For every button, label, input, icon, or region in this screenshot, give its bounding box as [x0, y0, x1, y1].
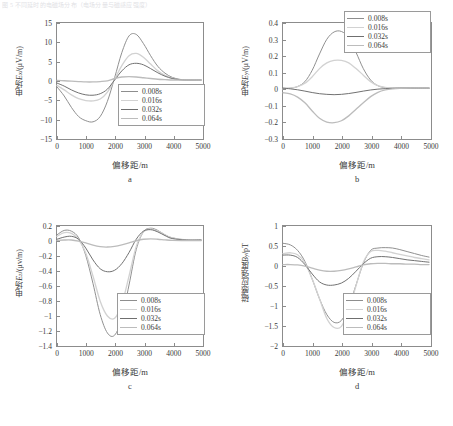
- y-tick-mark: [57, 241, 60, 242]
- x-tick-mark: [145, 343, 146, 346]
- y-tick-mark: [57, 286, 60, 287]
- y-tick-label: 10: [12, 38, 52, 47]
- x-tick-mark: [86, 136, 87, 139]
- panel-b-legend: 0.008s 0.016s 0.032s 0.064s: [344, 11, 431, 53]
- x-tick-mark: [174, 136, 175, 139]
- legend-swatch-line: [347, 45, 364, 46]
- legend-item: 0.064s: [121, 114, 201, 123]
- legend-item: 0.032s: [121, 105, 201, 114]
- y-tick-label: −0.4: [12, 267, 52, 276]
- panel-a-xlabel: 偏移距/m: [50, 158, 210, 170]
- y-tick-mark: [57, 271, 60, 272]
- x-tick-mark: [431, 343, 432, 346]
- panel-c-legend: 0.008s 0.016s 0.032s 0.064s: [117, 293, 205, 335]
- panel-a: 电场Ex/(μV/m) 0.008s 0.016s 0.032s 0.064s …: [0, 8, 226, 213]
- y-tick-mark: [57, 81, 60, 82]
- y-tick-mark: [57, 100, 60, 101]
- y-tick-label: −1.5: [238, 322, 278, 331]
- y-tick-label: −1: [238, 302, 278, 311]
- x-tick-label: 5000: [411, 349, 451, 358]
- series-line-0.064s: [283, 88, 429, 123]
- legend-item: 0.064s: [120, 323, 201, 332]
- legend-item: 0.032s: [120, 314, 201, 323]
- y-tick-label: 0: [238, 85, 278, 94]
- x-tick-label: 5000: [411, 142, 451, 151]
- panel-a-ylabel: 电场Ex/(μV/m): [14, 46, 25, 96]
- y-tick-mark: [57, 139, 60, 140]
- y-tick-mark: [57, 256, 60, 257]
- legend-item: 0.064s: [346, 323, 427, 332]
- y-tick-label: 0: [238, 262, 278, 271]
- x-tick-mark: [57, 343, 58, 346]
- y-tick-label: 5: [12, 57, 52, 66]
- x-tick-mark: [283, 136, 284, 139]
- x-tick-mark: [86, 343, 87, 346]
- y-tick-label: 0.5: [238, 242, 278, 251]
- series-line-0.032s: [283, 88, 429, 95]
- y-tick-label: 0.1: [238, 68, 278, 77]
- x-tick-mark: [401, 136, 402, 139]
- legend-item: 0.016s: [346, 305, 427, 314]
- y-tick-mark: [283, 326, 286, 327]
- legend-swatch-line: [121, 91, 138, 92]
- legend-item: 0.016s: [120, 305, 201, 314]
- y-tick-label: −5: [12, 96, 52, 105]
- series-line-0.016s: [283, 60, 429, 89]
- x-tick-mark: [313, 136, 314, 139]
- y-tick-mark: [283, 286, 286, 287]
- legend-swatch-line: [346, 309, 363, 310]
- panel-d-ylabel: 磁感应强度By/pT: [240, 243, 251, 302]
- x-tick-mark: [342, 343, 343, 346]
- y-tick-mark: [283, 266, 286, 267]
- legend-item: 0.008s: [121, 87, 201, 96]
- legend-item: 0.032s: [347, 32, 427, 41]
- y-tick-label: −1: [12, 312, 52, 321]
- x-tick-mark: [372, 136, 373, 139]
- y-tick-label: −1.2: [12, 327, 52, 336]
- y-tick-label: −10: [12, 115, 52, 124]
- legend-item: 0.008s: [347, 14, 427, 23]
- x-tick-label: 5000: [183, 142, 223, 151]
- panel-b-xlabel: 偏移距/m: [277, 158, 437, 170]
- y-tick-mark: [57, 62, 60, 63]
- panel-d-letter: d: [277, 381, 437, 391]
- x-tick-mark: [174, 343, 175, 346]
- legend-swatch-line: [120, 309, 137, 310]
- legend-swatch-line: [346, 318, 363, 319]
- panel-d: 磁感应强度By/pT 0.008s 0.016s 0.032s 0.064s 偏…: [226, 213, 453, 426]
- y-tick-label: 0: [12, 77, 52, 86]
- panel-a-legend: 0.008s 0.016s 0.032s 0.064s: [118, 84, 205, 126]
- x-tick-label: 5000: [183, 349, 223, 358]
- panel-d-xlabel: 偏移距/m: [277, 365, 437, 377]
- y-tick-mark: [57, 120, 60, 121]
- y-tick-mark: [57, 226, 60, 227]
- y-tick-label: −0.2: [238, 118, 278, 127]
- x-tick-mark: [57, 136, 58, 139]
- y-tick-mark: [283, 73, 286, 74]
- y-tick-mark: [283, 346, 286, 347]
- panel-d-legend: 0.008s 0.016s 0.032s 0.064s: [343, 293, 431, 335]
- panel-c-xlabel: 偏移距/m: [50, 365, 210, 377]
- x-tick-mark: [313, 343, 314, 346]
- y-tick-mark: [57, 42, 60, 43]
- y-tick-label: 1: [238, 222, 278, 231]
- y-tick-label: −0.8: [12, 297, 52, 306]
- x-tick-mark: [115, 136, 116, 139]
- y-tick-mark: [283, 56, 286, 57]
- y-tick-mark: [57, 301, 60, 302]
- y-tick-label: −0.1: [238, 101, 278, 110]
- x-tick-mark: [401, 343, 402, 346]
- y-tick-mark: [283, 246, 286, 247]
- y-tick-mark: [283, 23, 286, 24]
- y-tick-mark: [57, 316, 60, 317]
- panel-b-letter: b: [277, 174, 437, 184]
- legend-swatch-line: [121, 118, 138, 119]
- series-line-0.032s: [283, 255, 429, 285]
- panel-b: 电场Ey/(μV/m) 0.008s 0.016s 0.032s 0.064s …: [226, 8, 453, 213]
- legend-item: 0.064s: [347, 41, 427, 50]
- y-tick-mark: [57, 331, 60, 332]
- legend-swatch-line: [120, 318, 137, 319]
- legend-swatch-line: [347, 27, 364, 28]
- y-tick-mark: [57, 23, 60, 24]
- x-tick-mark: [283, 343, 284, 346]
